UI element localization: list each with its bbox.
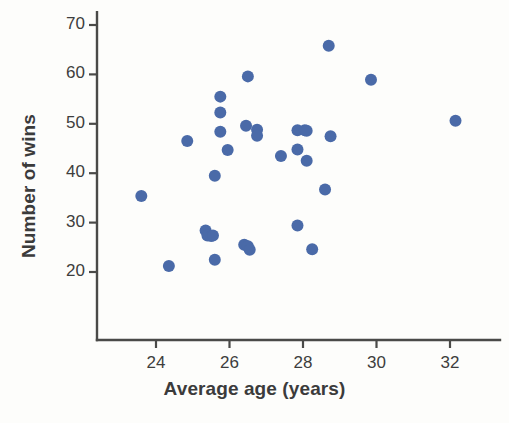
data-point	[301, 125, 313, 137]
data-point	[450, 115, 462, 127]
data-point	[319, 184, 331, 196]
x-axis-title: Average age (years)	[0, 378, 509, 400]
data-point	[222, 144, 234, 156]
data-point	[163, 260, 175, 272]
data-point	[244, 244, 256, 256]
x-tick-label-26: 26	[208, 353, 252, 373]
data-point	[135, 190, 147, 202]
data-point	[214, 126, 226, 138]
data-point	[251, 130, 263, 142]
data-point	[214, 106, 226, 118]
y-tick-label-30: 30	[41, 212, 85, 232]
data-point	[240, 120, 252, 132]
scatter-plot-figure: Number of wins Average age (years) 20304…	[0, 0, 509, 423]
data-point	[323, 40, 335, 52]
data-point	[291, 143, 303, 155]
data-point	[325, 130, 337, 142]
data-point	[207, 229, 219, 241]
x-tick-label-32: 32	[428, 353, 472, 373]
data-point	[301, 155, 313, 167]
data-point	[291, 220, 303, 232]
x-tick-label-28: 28	[281, 353, 325, 373]
data-point	[209, 170, 221, 182]
y-tick-label-60: 60	[41, 63, 85, 83]
y-tick-label-20: 20	[41, 261, 85, 281]
y-axis-title: Number of wins	[18, 91, 40, 281]
data-point	[242, 70, 254, 82]
x-tick-label-30: 30	[355, 353, 399, 373]
y-tick-label-50: 50	[41, 113, 85, 133]
data-point	[365, 74, 377, 86]
y-tick-label-70: 70	[41, 14, 85, 34]
data-point	[181, 135, 193, 147]
data-point	[275, 150, 287, 162]
x-tick-label-24: 24	[134, 353, 178, 373]
data-point	[306, 243, 318, 255]
y-tick-label-40: 40	[41, 162, 85, 182]
data-point	[209, 254, 221, 266]
data-point	[214, 91, 226, 103]
